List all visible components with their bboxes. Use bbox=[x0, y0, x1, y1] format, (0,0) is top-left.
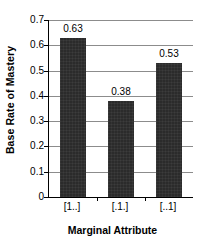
y-tick-label: 0.1 bbox=[18, 167, 44, 177]
bar-value-label: 0.38 bbox=[101, 87, 141, 97]
x-axis-title: Marginal Attribute bbox=[30, 224, 195, 236]
y-tick-label: 0 bbox=[18, 192, 44, 202]
y-axis-title-label: Base Rate of Mastery bbox=[4, 46, 16, 154]
bar bbox=[156, 63, 182, 197]
y-tick-label: 0.6 bbox=[18, 40, 44, 50]
x-tick-label: [..1] bbox=[144, 201, 192, 212]
y-tick-label: 0.7 bbox=[18, 15, 44, 25]
y-tick-label: 0.4 bbox=[18, 91, 44, 101]
y-axis-title: Base Rate of Mastery bbox=[0, 0, 20, 200]
bar bbox=[60, 38, 86, 197]
y-axis-tick-labels: 00.10.20.30.40.50.60.7 bbox=[18, 20, 44, 197]
y-tick-label: 0.2 bbox=[18, 141, 44, 151]
bar-value-label: 0.53 bbox=[149, 49, 189, 59]
y-tick-label: 0.3 bbox=[18, 116, 44, 126]
x-tick-label: [1..] bbox=[48, 201, 96, 212]
y-tick-label: 0.5 bbox=[18, 66, 44, 76]
bar bbox=[108, 101, 134, 197]
plot-area: 0.630.380.53 bbox=[48, 20, 193, 198]
bar-value-label: 0.63 bbox=[53, 24, 93, 34]
gridline bbox=[49, 20, 193, 21]
x-axis-tick-labels: [1..][.1.][..1] bbox=[48, 201, 192, 215]
x-tick-label: [.1.] bbox=[96, 201, 144, 212]
bar-chart-figure: Base Rate of Mastery 00.10.20.30.40.50.6… bbox=[0, 0, 205, 248]
